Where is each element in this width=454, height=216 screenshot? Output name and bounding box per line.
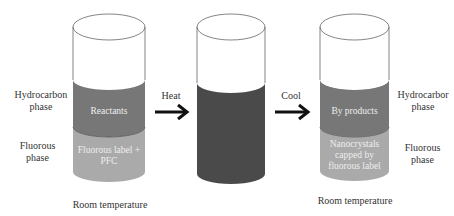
arrow-cool-icon	[275, 105, 308, 119]
cylinder-middle	[197, 14, 265, 184]
label-hydrocarbon-left: Hydrocarbon phase	[10, 89, 72, 113]
label-cool: Cool	[275, 90, 307, 102]
layer-nanocrystals: Nanocrystals capped by fluorous label	[320, 139, 389, 172]
layer-fluorous-label-pfc: Fluorous label + PFC	[73, 145, 145, 167]
layer-reactants: Reactants	[73, 106, 145, 117]
label-hydrocarbon-right: Hydrocarbor phase	[393, 89, 453, 113]
label-fluorous-left: Fluorous phase	[10, 140, 65, 164]
layer-by-products: By products	[320, 106, 389, 117]
caption-left: Room temperature	[65, 199, 155, 211]
label-fluorous-right: Fluorous phase	[395, 142, 450, 166]
arrow-heat-icon	[155, 105, 187, 119]
caption-right: Room temperature	[310, 195, 400, 207]
label-heat: Heat	[155, 90, 187, 102]
